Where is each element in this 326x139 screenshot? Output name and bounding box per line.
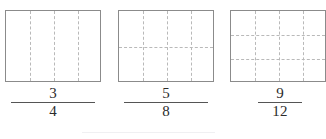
area-model-rectangle-2 bbox=[118, 10, 214, 82]
fraction-numerator-1: 3 bbox=[5, 86, 101, 102]
fraction-numerator-3: 9 bbox=[255, 86, 305, 102]
grid-vline-3-1 bbox=[255, 11, 256, 81]
area-model-rectangle-1 bbox=[5, 10, 101, 82]
grid-vline-3-2 bbox=[279, 11, 280, 81]
grid-vline-2-3 bbox=[191, 11, 192, 81]
grid-vline-2-2 bbox=[167, 11, 168, 81]
grid-hline-2-1 bbox=[119, 47, 213, 48]
fraction-label-1: 3 4 bbox=[5, 86, 101, 119]
fraction-numerator-2: 5 bbox=[118, 86, 214, 102]
area-model-rectangle-3 bbox=[230, 10, 326, 82]
bottom-divider-rule bbox=[82, 132, 215, 133]
fraction-label-2: 5 8 bbox=[118, 86, 214, 119]
fraction-denominator-3: 12 bbox=[255, 104, 305, 120]
grid-vline-1-1 bbox=[30, 11, 31, 81]
grid-vline-3-3 bbox=[303, 11, 304, 81]
grid-lines-3 bbox=[231, 11, 325, 81]
grid-lines-2 bbox=[119, 11, 213, 81]
grid-lines-1 bbox=[6, 11, 100, 81]
fraction-denominator-1: 4 bbox=[5, 104, 101, 120]
grid-hline-3-2 bbox=[231, 59, 325, 60]
grid-vline-1-2 bbox=[54, 11, 55, 81]
grid-hline-3-1 bbox=[231, 35, 325, 36]
fraction-denominator-2: 8 bbox=[118, 104, 214, 120]
fraction-label-3: 9 12 bbox=[255, 86, 305, 119]
grid-vline-2-1 bbox=[143, 11, 144, 81]
grid-vline-1-3 bbox=[78, 11, 79, 81]
